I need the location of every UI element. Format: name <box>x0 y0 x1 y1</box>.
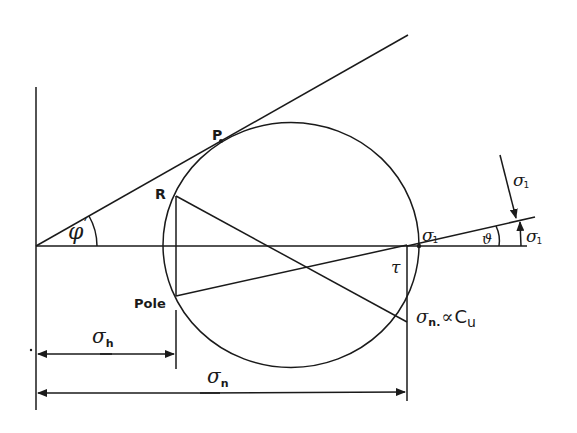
phi-arc <box>89 216 97 246</box>
stray-dot <box>30 349 32 351</box>
mohr-circle <box>163 123 419 368</box>
theta-arc <box>496 226 499 246</box>
mohr-circle-diagram: P R Pole φʹ σ1 σ1 σ1 ϑ τ σn.∝Cu σh σn <box>0 0 577 433</box>
label-theta: ϑ <box>482 232 492 246</box>
sigma1-arrow-up <box>520 222 521 246</box>
label-sigma-n-dimension: σn <box>207 366 229 386</box>
pole-sigma1-line <box>176 245 407 296</box>
point-sigma1 <box>417 244 421 248</box>
label-r: R <box>155 187 166 201</box>
label-p: P <box>212 128 222 142</box>
label-sigma1-point: σ1 <box>422 227 438 244</box>
label-sigma1-right: σ1 <box>526 228 542 245</box>
label-pole: Pole <box>134 297 166 310</box>
label-sigma-n-cu: σn.∝Cu <box>416 308 476 326</box>
label-tau: τ <box>391 259 400 276</box>
r-sigma-n-line <box>176 196 407 322</box>
label-sigma1-top: σ1 <box>513 172 529 189</box>
label-phi-prime: φʹ <box>68 221 87 243</box>
label-sigma-h: σh <box>92 326 114 346</box>
